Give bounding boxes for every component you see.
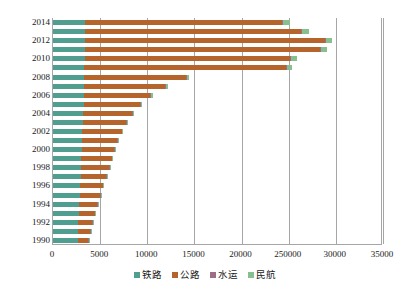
bar-segment-铁路 [53,202,79,207]
y-axis-tick-2014: 2014 [2,18,50,27]
bar-segment-铁路 [53,193,80,198]
bar-segment-民航 [283,20,290,25]
legend-swatch-icon [210,272,216,278]
bar-row [53,20,290,25]
bar-row [53,111,134,116]
bar-row [53,38,332,43]
bar-row [53,238,89,243]
bar-segment-铁路 [53,65,84,70]
y-axis-tick-1998: 1998 [2,163,50,172]
x-axis-tick-15000: 15000 [182,249,205,259]
bar-segment-民航 [291,56,297,61]
bar-segment-铁路 [53,29,85,34]
bar-segment-公路 [85,38,324,43]
y-axis-tick-1996: 1996 [2,181,50,190]
bar-segment-民航 [187,75,189,80]
bar-segment-铁路 [53,183,80,188]
bar-segment-铁路 [53,238,78,243]
bar-row [53,193,101,198]
bar-segment-铁路 [53,111,83,116]
y-axis-tick-2012: 2012 [2,36,50,45]
bar-segment-公路 [78,229,90,234]
bar-segment-民航 [127,120,128,125]
bar-segment-铁路 [53,147,82,152]
bar-segment-铁路 [53,174,81,179]
bar-segment-公路 [81,165,109,170]
bar-segment-公路 [85,29,301,34]
bar-row [53,93,153,98]
bar-row [53,65,292,70]
legend-label: 铁路 [142,269,162,281]
bar-segment-公路 [85,20,282,25]
bar-row [53,183,104,188]
bar-row [53,147,116,152]
x-axis-tick-250000: 250000 [274,249,301,259]
y-axis-tick-2000: 2000 [2,145,50,154]
bar-segment-民航 [302,29,309,34]
bar-segment-民航 [287,65,292,70]
legend-swatch-icon [172,272,178,278]
legend-item-民航[interactable]: 民航 [248,268,276,281]
x-axis-tick-0: 0 [50,249,55,259]
bar-row [53,174,107,179]
bar-segment-民航 [166,84,168,89]
y-axis-tick-1992: 1992 [2,218,50,227]
y-axis-tick-2004: 2004 [2,109,50,118]
bar-segment-铁路 [53,93,84,98]
bar-row [53,202,98,207]
bar-row [53,47,327,52]
bar-row [53,211,95,216]
bar-segment-铁路 [53,156,81,161]
bar-row [53,138,119,143]
bar-segment-公路 [78,220,92,225]
bar-segment-公路 [80,183,103,188]
bar-row [53,102,142,107]
bar-segment-公路 [81,174,106,179]
bar-segment-公路 [83,120,126,125]
bar-row [53,165,110,170]
bar-segment-公路 [84,65,286,70]
bar-row [53,229,91,234]
bar-segment-铁路 [53,138,82,143]
bar-segment-民航 [326,38,333,43]
x-axis-tick-5000: 5000 [90,249,108,259]
bar-segment-公路 [84,102,141,107]
bar-segment-铁路 [53,220,78,225]
bar-segment-公路 [82,147,115,152]
bar-segment-民航 [141,102,142,107]
bars-layer [53,18,381,244]
bar-segment-公路 [85,47,320,52]
bar-segment-民航 [133,111,134,116]
x-axis-tick-20000: 20000 [229,249,252,259]
bar-row [53,84,168,89]
legend-item-公路[interactable]: 公路 [172,268,200,281]
bar-segment-铁路 [53,211,79,216]
x-axis: 050001000015000200002500003000035000 [0,249,409,263]
y-axis-tick-2010: 2010 [2,54,50,63]
bar-segment-公路 [79,211,95,216]
bar-segment-民航 [122,129,123,134]
y-axis-tick-2008: 2008 [2,73,50,82]
y-axis-tick-2006: 2006 [2,91,50,100]
bar-segment-民航 [151,93,153,98]
plot-area [52,18,382,245]
gridline-35000 [383,18,384,244]
bar-segment-公路 [80,193,100,198]
legend-item-铁路[interactable]: 铁路 [134,268,162,281]
chart-legend: 铁路公路水运民航 [0,268,409,281]
bar-row [53,129,123,134]
bar-segment-公路 [84,84,165,89]
bar-segment-公路 [84,75,186,80]
bar-segment-铁路 [53,75,84,80]
legend-item-水运[interactable]: 水运 [210,268,238,281]
x-axis-tick-30000: 30000 [324,249,347,259]
bar-row [53,156,113,161]
bar-segment-铁路 [53,120,83,125]
bar-segment-公路 [84,93,150,98]
bar-segment-公路 [83,111,132,116]
bar-segment-铁路 [53,84,84,89]
bar-segment-铁路 [53,38,85,43]
bar-segment-铁路 [53,56,85,61]
bar-segment-公路 [78,238,88,243]
chart-container: 2014201220102008200620042002200019981996… [0,0,409,294]
